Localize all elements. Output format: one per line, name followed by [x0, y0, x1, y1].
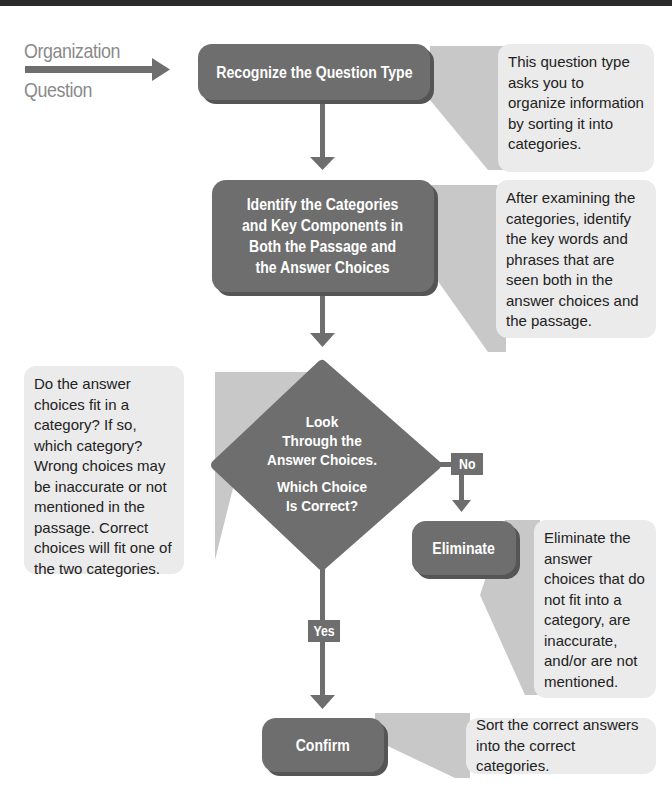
step-confirm-label: Confirm	[296, 735, 350, 756]
step-recognize-label: Recognize the Question Type	[216, 62, 412, 83]
callout-wedge-identify	[430, 185, 506, 352]
step-confirm: Confirm	[262, 718, 384, 772]
arrow-down-icon	[452, 500, 471, 512]
decision-line: Answer Choices.	[246, 450, 397, 469]
note-identify: After examining the categories, identify…	[496, 180, 656, 338]
branch-yes-tag: Yes	[308, 620, 340, 642]
decision-line: Look	[246, 412, 397, 431]
step-eliminate: Eliminate	[412, 521, 516, 575]
decision-line: Through the	[246, 431, 397, 450]
branch-no-tag: No	[451, 453, 483, 475]
callout-wedge-recognize	[430, 46, 506, 170]
step-eliminate-label: Eliminate	[433, 538, 496, 559]
note-recognize: This question type asks you to organize …	[498, 44, 654, 172]
arrow-down-icon	[310, 695, 335, 709]
step-identify-line: Both the Passage and	[242, 236, 403, 257]
step-identify-line: the Answer Choices	[242, 257, 403, 278]
entry-label-line1: Organization	[24, 39, 120, 63]
branch-yes-label: Yes	[313, 623, 334, 639]
entry-label-line2: Question	[24, 78, 92, 102]
note-confirm: Sort the correct answers into the correc…	[466, 718, 656, 774]
step-recognize: Recognize the Question Type	[198, 44, 430, 100]
note-decision: Do the answer choices fit in a category?…	[24, 366, 184, 574]
decision-label: Look Through the Answer Choices. Which C…	[236, 412, 408, 515]
decision-line: Is Correct?	[246, 496, 397, 515]
arrow-down-icon	[310, 157, 335, 170]
callout-wedge-confirm	[375, 713, 470, 778]
step-identify-line: Identify the Categories	[242, 194, 403, 215]
step-identify: Identify the Categories and Key Componen…	[212, 180, 434, 292]
branch-no-label: No	[459, 456, 475, 472]
arrow-right-icon	[152, 58, 170, 81]
step-identify-line: and Key Components in	[242, 215, 403, 236]
note-eliminate: Eliminate the answer choices that do not…	[534, 520, 656, 698]
decision-line: Which Choice	[246, 477, 397, 496]
arrow-down-icon	[310, 333, 335, 347]
